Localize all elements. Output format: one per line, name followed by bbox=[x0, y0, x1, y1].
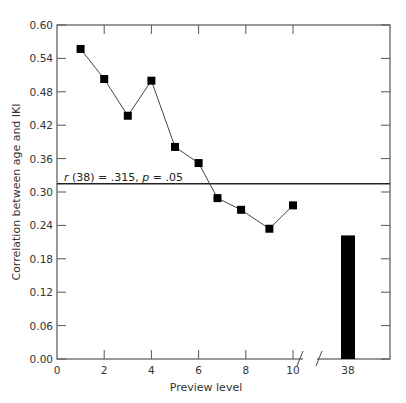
data-point-marker bbox=[265, 225, 273, 233]
y-tick-label: 0.54 bbox=[30, 52, 54, 64]
data-point-marker bbox=[100, 75, 108, 83]
y-tick-label: 0.00 bbox=[30, 353, 53, 365]
x-tick-label: 8 bbox=[242, 364, 249, 376]
data-point-marker bbox=[77, 45, 85, 53]
x-tick-label: 4 bbox=[148, 364, 155, 376]
x-tick-label: 6 bbox=[195, 364, 202, 376]
reference-line-label: r (38) = .315, p = .05 bbox=[64, 171, 183, 184]
data-point-marker bbox=[147, 77, 155, 85]
y-tick-label: 0.24 bbox=[30, 219, 54, 231]
y-axis-ticks: 0.000.060.120.180.240.300.360.420.480.54… bbox=[30, 19, 390, 365]
data-point-marker bbox=[289, 201, 297, 209]
x-tick-label: 38 bbox=[341, 364, 354, 376]
y-tick-label: 0.36 bbox=[30, 153, 54, 165]
data-point-marker bbox=[195, 159, 203, 167]
p-symbol: p bbox=[141, 171, 149, 184]
p-value: = .05 bbox=[149, 171, 183, 184]
y-axis-title: Correlation between age and IKI bbox=[10, 103, 23, 280]
y-tick-label: 0.48 bbox=[30, 86, 53, 98]
r-value: (38) = .315, bbox=[69, 171, 143, 184]
axis-break-gap bbox=[303, 357, 317, 361]
y-tick-label: 0.60 bbox=[30, 19, 53, 31]
square-markers bbox=[77, 45, 297, 233]
correlation-chart: 0.000.060.120.180.240.300.360.420.480.54… bbox=[0, 0, 406, 403]
data-point-marker bbox=[237, 206, 245, 214]
y-tick-label: 0.12 bbox=[30, 286, 53, 298]
x-axis-title: Preview level bbox=[170, 381, 242, 394]
x-tick-label: 0 bbox=[54, 364, 61, 376]
data-point-marker bbox=[213, 194, 221, 202]
correlation-line-series bbox=[81, 49, 293, 229]
y-tick-label: 0.06 bbox=[30, 320, 54, 332]
y-tick-label: 0.30 bbox=[30, 186, 53, 198]
bar-rect bbox=[341, 235, 355, 359]
data-point-marker bbox=[171, 143, 179, 151]
data-point-marker bbox=[124, 112, 132, 120]
y-tick-label: 0.42 bbox=[30, 119, 53, 131]
x-axis-ticks: 024681038 bbox=[54, 25, 355, 376]
x-tick-label: 10 bbox=[286, 364, 299, 376]
y-tick-label: 0.18 bbox=[30, 253, 53, 265]
series-line bbox=[81, 49, 293, 229]
x-tick-label: 2 bbox=[101, 364, 108, 376]
bar-preview-38 bbox=[341, 235, 355, 359]
